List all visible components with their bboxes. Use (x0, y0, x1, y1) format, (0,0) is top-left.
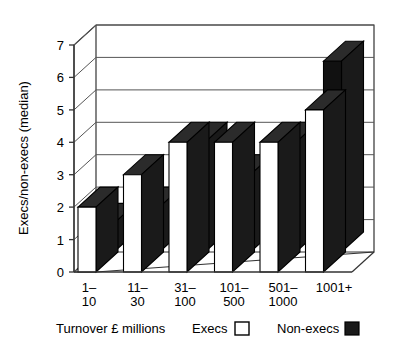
bar-chart-3d: 7 6 5 4 3 2 1 0 Execs/non-execs (median) (0, 0, 396, 344)
gridline-connector-5 (74, 90, 96, 110)
bar-execs-1-10 (78, 187, 118, 272)
y-tick-label-2: 2 (57, 200, 64, 215)
y-tick-label-7: 7 (57, 38, 64, 53)
bar-execs-31-100 (169, 122, 209, 272)
gridline-connector-7 (74, 25, 96, 45)
bar-side (233, 122, 255, 272)
y-tick-label-5: 5 (57, 103, 64, 118)
legend-label-non-execs: Non-execs (277, 321, 340, 336)
y-axis-ticks (69, 45, 74, 272)
x-axis-caption: Turnover £ millions (56, 321, 166, 336)
cat-label-101-500-line1: 101– (220, 280, 250, 295)
bar-execs-501-1000 (260, 122, 300, 272)
bar-front (215, 142, 233, 272)
bar-front (124, 175, 142, 272)
cat-label-1-10-line2: 10 (82, 294, 96, 309)
y-axis: 7 6 5 4 3 2 1 0 Execs/non-execs (median) (16, 38, 74, 280)
bar-execs-11-30 (124, 155, 164, 272)
y-tick-label-4: 4 (57, 135, 64, 150)
black-square-swatch-icon (345, 322, 359, 335)
chart-container: 7 6 5 4 3 2 1 0 Execs/non-execs (median) (0, 0, 396, 344)
bar-front (260, 142, 278, 272)
cat-label-1001-plus-line1: 1001+ (316, 280, 353, 295)
cat-label-101-500-line2: 500 (223, 294, 245, 309)
cat-label-31-100-line1: 31– (174, 280, 196, 295)
bar-side (187, 122, 209, 272)
bar-front (306, 110, 324, 272)
gridline-connector-3 (74, 155, 96, 175)
bar-side (142, 155, 164, 272)
bar-front (78, 207, 96, 272)
gridline-connector-6 (74, 57, 96, 77)
y-tick-label-3: 3 (57, 168, 64, 183)
y-axis-tick-labels: 7 6 5 4 3 2 1 0 (57, 38, 64, 280)
cat-label-11-30-line1: 11– (127, 280, 148, 295)
y-tick-label-6: 6 (57, 70, 64, 85)
cat-label-1-10-line1: 1– (82, 280, 97, 295)
gridline-connector-4 (74, 122, 96, 142)
bar-front (169, 142, 187, 272)
y-tick-label-0: 0 (57, 265, 64, 280)
legend-label-execs: Execs (192, 321, 228, 336)
white-square-swatch-icon (235, 322, 249, 335)
bar-side (278, 122, 300, 272)
cat-label-31-100-line2: 100 (174, 294, 196, 309)
chart-legend: Turnover £ millions Execs Non-execs (56, 321, 359, 336)
y-tick-label-1: 1 (57, 233, 64, 248)
x-axis-category-labels: 1– 10 11– 30 31– 100 101– 500 501– 1000 … (82, 280, 352, 309)
bar-side (324, 90, 346, 272)
bar-group-1001-plus (306, 41, 364, 272)
cat-label-501-1000-line2: 1000 (269, 294, 298, 309)
bar-execs-101-500 (215, 122, 255, 272)
y-axis-title: Execs/non-execs (median) (16, 81, 31, 235)
bar-execs-1001-plus (306, 90, 346, 272)
x-axis-right-edge (352, 252, 374, 272)
cat-label-501-1000-line1: 501– (269, 280, 299, 295)
cat-label-11-30-line2: 30 (130, 294, 144, 309)
